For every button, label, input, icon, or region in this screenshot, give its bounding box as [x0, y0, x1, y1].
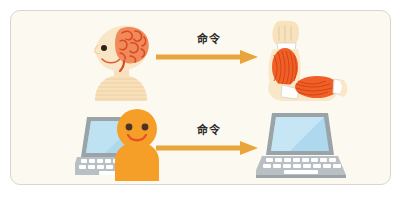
laptop-icon	[256, 111, 348, 179]
diagram-card: 命令	[10, 10, 391, 185]
brain-icon	[87, 21, 163, 101]
muscle-arm-icon	[254, 19, 350, 103]
diagram-row-biological: 命令	[11, 15, 392, 103]
laptop-computer-figure	[246, 103, 366, 186]
flexed-arm-muscles-figure	[246, 15, 366, 103]
diagram-row-computer: 命令	[11, 103, 392, 186]
figure-canvas: 命令	[0, 0, 405, 201]
